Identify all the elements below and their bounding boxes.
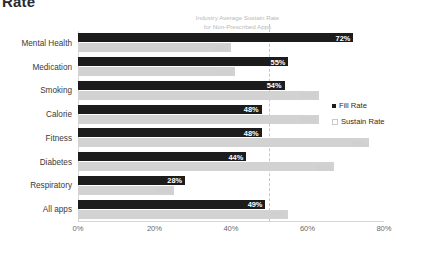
legend-item-sustain-rate: Sustain Rate [332, 117, 384, 126]
bar-segment [78, 115, 319, 124]
bar-segment [78, 200, 265, 209]
category-label: Respiratory [30, 181, 72, 190]
chart-legend: Fill Rate Sustain Rate [332, 101, 384, 133]
x-tick-label: 0% [73, 224, 84, 233]
annotation-line-1: Industry Average Sustain Rate [196, 14, 279, 21]
legend-swatch-sustain-icon [332, 119, 338, 125]
bar-segment [78, 91, 319, 100]
bar-segment [78, 67, 235, 76]
category-label: Smoking [40, 86, 72, 95]
bar-value-label: 49% [248, 200, 263, 209]
chart-page: Rate Industry Average Sustain Rate for N… [0, 0, 422, 254]
bar-sustain-rate: 41% [78, 67, 384, 76]
bar-sustain-rate: 40% [78, 43, 384, 52]
bar-fill-rate: 54% [78, 81, 384, 90]
bar-fill-rate: 55% [78, 57, 384, 66]
x-axis-line [78, 221, 384, 222]
bar-segment [78, 138, 369, 147]
bar-segment [78, 152, 246, 161]
x-tick-label: 80% [376, 224, 391, 233]
bar-segment [78, 33, 353, 42]
bar-group: Mental Health72%40% [78, 31, 384, 55]
bar-segment [78, 162, 334, 171]
category-label: Mental Health [21, 38, 72, 47]
bar-segment [78, 128, 262, 137]
bar-value-label: 48% [244, 128, 259, 137]
bar-segment [78, 43, 231, 52]
category-label: Fitness [46, 133, 72, 142]
bar-value-label: 55% [271, 210, 286, 219]
x-tick-label: 20% [147, 224, 162, 233]
bar-value-label: 76% [351, 138, 366, 147]
x-axis-ticks: 0%20%40%60%80% [78, 224, 384, 238]
bar-sustain-rate: 25% [78, 186, 384, 195]
x-tick-label: 60% [300, 224, 315, 233]
bar-sustain-rate: 76% [78, 138, 384, 147]
annotation-line-2: for Non-Prescribed Apps [204, 23, 271, 30]
x-tick-label: 40% [223, 224, 238, 233]
bar-fill-rate: 72% [78, 33, 384, 42]
bar-sustain-rate: 55% [78, 210, 384, 219]
bar-segment [78, 81, 285, 90]
page-title: Rate [2, 0, 35, 10]
bar-value-label: 67% [316, 162, 331, 171]
reference-line-annotation: Industry Average Sustain Rate for Non-Pr… [150, 14, 325, 31]
bar-segment [78, 57, 288, 66]
bar-value-label: 48% [244, 105, 259, 114]
bar-value-label: 72% [336, 33, 351, 42]
legend-label-sustain-rate: Sustain Rate [341, 117, 384, 126]
bar-sustain-rate: 63% [78, 91, 384, 100]
bar-value-label: 28% [167, 176, 182, 185]
bar-value-label: 63% [301, 91, 316, 100]
bar-value-label: 41% [217, 67, 232, 76]
category-label: Calorie [46, 110, 72, 119]
bar-fill-rate: 28% [78, 176, 384, 185]
bar-segment [78, 210, 288, 219]
bar-group: Smoking54%63% [78, 79, 384, 103]
bar-value-label: 44% [229, 152, 244, 161]
bar-value-label: 54% [267, 81, 282, 90]
bar-value-label: 40% [213, 43, 228, 52]
bar-value-label: 55% [271, 57, 286, 66]
bar-fill-rate: 49% [78, 200, 384, 209]
legend-label-fill-rate: Fill Rate [339, 101, 367, 110]
category-label: All apps [43, 205, 72, 214]
bar-group: Diabetes44%67% [78, 150, 384, 174]
bar-sustain-rate: 67% [78, 162, 384, 171]
bar-group: Respiratory28%25% [78, 174, 384, 198]
bar-group: All apps49%55% [78, 197, 384, 221]
bar-value-label: 63% [301, 115, 316, 124]
bar-segment [78, 105, 262, 114]
legend-item-fill-rate: Fill Rate [332, 101, 384, 110]
bar-value-label: 25% [156, 186, 171, 195]
bar-fill-rate: 44% [78, 152, 384, 161]
legend-swatch-fill-icon [332, 104, 336, 108]
bar-group: Medication55%41% [78, 55, 384, 79]
category-label: Medication [32, 62, 72, 71]
category-label: Diabetes [40, 157, 72, 166]
